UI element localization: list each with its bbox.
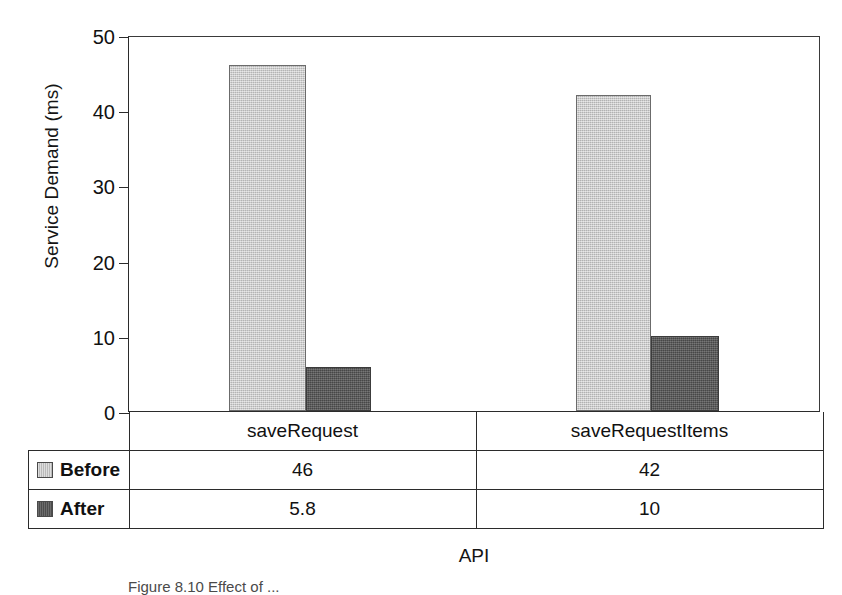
table-column-header: saveRequest — [129, 412, 476, 451]
y-axis-title: Service Demand (ms) — [41, 0, 63, 356]
legend-swatch-icon — [37, 501, 53, 517]
legend-item-after[interactable]: After — [29, 490, 130, 529]
y-tick-mark — [119, 338, 129, 339]
table-cell-value: 46 — [129, 451, 476, 490]
legend-label: After — [60, 498, 104, 520]
bar-before-saveRequest — [229, 65, 306, 411]
plot-area: 01020304050 — [128, 36, 820, 412]
x-axis-title: API — [128, 545, 820, 567]
table-cell-value: 5.8 — [129, 490, 476, 529]
table-legend-header-spacer — [29, 412, 130, 451]
legend-label: Before — [60, 459, 120, 481]
table-row: Before4642 — [29, 451, 824, 490]
y-tick-mark — [119, 37, 129, 38]
y-tick-mark — [119, 187, 129, 188]
y-tick-mark — [119, 112, 129, 113]
y-tick-mark — [119, 263, 129, 264]
y-tick-label: 40 — [93, 101, 115, 124]
y-tick-label: 20 — [93, 251, 115, 274]
y-tick-label: 50 — [93, 26, 115, 49]
figure-caption: Figure 8.10 Effect of ... — [128, 578, 828, 595]
y-tick-label: 10 — [93, 326, 115, 349]
legend-item-before[interactable]: Before — [29, 451, 130, 490]
table-category-row: saveRequestsaveRequestItems — [29, 412, 824, 451]
bar-after-saveRequest — [306, 367, 371, 411]
table-row: After5.810 — [29, 490, 824, 529]
bar-before-saveRequestItems — [576, 95, 651, 411]
y-tick-label: 30 — [93, 176, 115, 199]
bar-after-saveRequestItems — [651, 336, 719, 411]
data-table: saveRequestsaveRequestItemsBefore4642Aft… — [28, 412, 824, 529]
legend-swatch-icon — [37, 462, 53, 478]
table-cell-value: 42 — [476, 451, 823, 490]
table-column-header: saveRequestItems — [476, 412, 823, 451]
table-cell-value: 10 — [476, 490, 823, 529]
